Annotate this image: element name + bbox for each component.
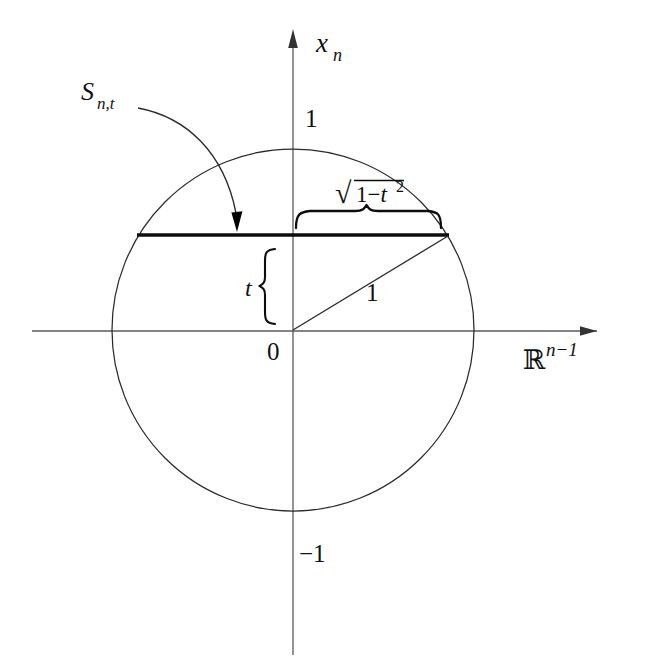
halfwidth-brace [296, 205, 441, 228]
height-label: t [245, 275, 253, 301]
y-axis-arrowhead [288, 29, 298, 48]
slice-label-arrow-curve [138, 108, 236, 213]
tick-label-bottom: −1 [299, 540, 326, 567]
halfwidth-label-radical: √ [335, 176, 352, 209]
halfwidth-brace-path [296, 205, 441, 228]
height-brace [260, 249, 276, 324]
y-axis-label-subscript: n [333, 45, 342, 65]
tick-label-top: 1 [305, 105, 318, 132]
x-axis-arrowhead [580, 326, 597, 336]
halfwidth-label-body: 1−t [356, 182, 387, 207]
slice-set-label: S n,t [81, 77, 116, 113]
halfwidth-label-exponent: 2 [396, 178, 404, 195]
radius-label: 1 [366, 279, 379, 306]
x-axis-label-superscript: n−1 [546, 339, 578, 360]
x-axis-label-base: ℝ [523, 345, 546, 375]
halfwidth-label: √ 1−t 2 [335, 176, 404, 209]
y-axis-label-base: x [315, 28, 328, 58]
slice-set-label-subscript: n,t [97, 94, 116, 113]
sphere-slice-diagram: x n ℝ n−1 1 −1 0 S n,t t 1 √ 1−t [0, 0, 647, 668]
height-brace-path [260, 249, 276, 324]
origin-label: 0 [267, 338, 280, 365]
y-axis-label: x n [315, 28, 342, 65]
figure-root: x n ℝ n−1 1 −1 0 S n,t t 1 √ 1−t [0, 0, 647, 668]
x-axis-label: ℝ n−1 [523, 339, 578, 375]
slice-label-arrow [138, 108, 242, 232]
slice-label-arrowhead [231, 211, 242, 232]
slice-set-label-base: S [81, 77, 94, 106]
